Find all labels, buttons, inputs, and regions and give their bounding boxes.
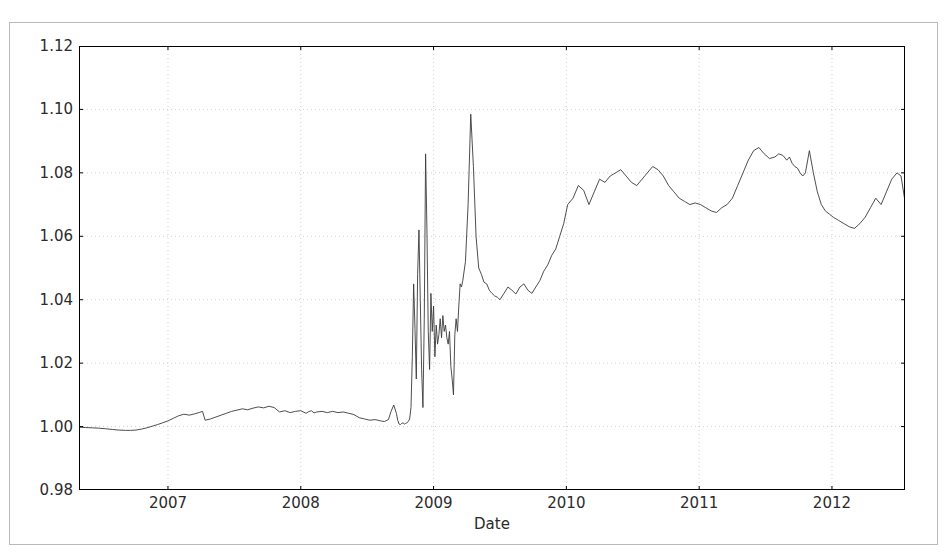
- x-tick-label: 2007: [149, 494, 187, 512]
- figure-panel: 0.981.001.021.041.061.081.101.12 2007200…: [9, 22, 938, 545]
- axis-tick-marks: [79, 46, 905, 490]
- x-tick-label: 2012: [813, 494, 851, 512]
- gridlines: [79, 46, 905, 490]
- y-tick-label: 1.00: [40, 418, 73, 436]
- x-tick-label: 2010: [547, 494, 585, 512]
- y-tick-label: 1.08: [40, 164, 73, 182]
- y-axis-tick-labels: 0.981.001.021.041.061.081.101.12: [10, 46, 73, 490]
- x-tick-label: 2011: [680, 494, 718, 512]
- chart-canvas: [79, 46, 905, 490]
- y-tick-label: 1.12: [40, 37, 73, 55]
- data-series-line: [79, 114, 905, 430]
- y-tick-label: 1.10: [40, 100, 73, 118]
- plot-axes-area: [79, 46, 905, 490]
- y-tick-label: 0.98: [40, 481, 73, 499]
- y-tick-label: 1.02: [40, 354, 73, 372]
- x-axis-title: Date: [79, 515, 905, 533]
- axes-spine: [80, 47, 905, 490]
- y-tick-label: 1.04: [40, 291, 73, 309]
- x-axis-tick-labels: 200720082009201020112012: [79, 494, 905, 516]
- x-tick-label: 2008: [282, 494, 320, 512]
- x-tick-label: 2009: [414, 494, 452, 512]
- y-tick-label: 1.06: [40, 227, 73, 245]
